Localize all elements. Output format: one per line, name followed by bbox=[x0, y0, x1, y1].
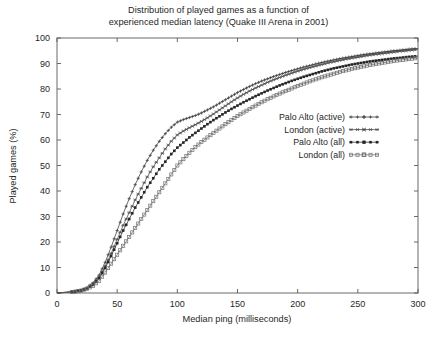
y-tick-label: 80 bbox=[40, 84, 50, 94]
x-tick-label: 100 bbox=[170, 299, 185, 309]
filled-square-marker bbox=[167, 157, 170, 160]
y-tick-label: 90 bbox=[40, 59, 50, 69]
filled-square-marker bbox=[287, 81, 290, 84]
filled-square-marker bbox=[269, 88, 272, 91]
filled-square-marker bbox=[248, 98, 251, 101]
filled-square-marker bbox=[224, 111, 227, 114]
y-tick-label: 70 bbox=[40, 110, 50, 120]
chart-title-line-2: experienced median latency (Quake III Ar… bbox=[109, 17, 329, 27]
filled-square-marker bbox=[293, 79, 296, 82]
filled-square-marker bbox=[200, 127, 203, 130]
filled-square-marker bbox=[375, 59, 378, 62]
filled-square-marker bbox=[206, 123, 209, 126]
chart-canvas: Distribution of played games as a functi… bbox=[0, 0, 437, 340]
filled-square-marker bbox=[155, 172, 158, 175]
filled-square-marker bbox=[101, 272, 104, 275]
filled-square-marker bbox=[170, 153, 173, 156]
filled-square-marker bbox=[113, 248, 116, 251]
filled-square-marker bbox=[176, 146, 179, 149]
y-axis-title: Played games (%) bbox=[8, 128, 18, 203]
filled-square-marker bbox=[191, 134, 194, 137]
filled-square-marker bbox=[215, 117, 218, 120]
filled-square-marker bbox=[116, 242, 119, 245]
filled-square-marker bbox=[329, 68, 332, 71]
filled-square-marker bbox=[317, 71, 320, 74]
filled-square-marker bbox=[131, 212, 134, 215]
filled-square-marker bbox=[302, 75, 305, 78]
filled-square-marker bbox=[326, 69, 329, 72]
legend-label: London (active) bbox=[284, 125, 345, 135]
filled-square-marker bbox=[320, 70, 323, 73]
filled-square-marker bbox=[152, 177, 155, 180]
filled-square-marker bbox=[158, 168, 161, 171]
filled-square-marker bbox=[384, 58, 387, 61]
filled-square-marker bbox=[356, 141, 359, 144]
filled-square-marker bbox=[335, 66, 338, 69]
filled-square-marker bbox=[376, 141, 379, 144]
filled-square-marker bbox=[369, 141, 372, 144]
y-tick-label: 0 bbox=[45, 288, 50, 298]
filled-square-marker bbox=[173, 150, 176, 153]
y-tick-label: 40 bbox=[40, 186, 50, 196]
filled-square-marker bbox=[104, 267, 107, 270]
filled-square-marker bbox=[354, 63, 357, 66]
filled-square-marker bbox=[338, 66, 341, 69]
filled-square-marker bbox=[149, 181, 152, 184]
filled-square-marker bbox=[323, 69, 326, 72]
chart-title-line-1: Distribution of played games as a functi… bbox=[128, 5, 309, 15]
filled-square-marker bbox=[311, 73, 314, 76]
filled-square-marker bbox=[314, 72, 317, 75]
x-axis-title: Median ping (milliseconds) bbox=[183, 314, 292, 324]
filled-square-marker bbox=[305, 75, 308, 78]
filled-square-marker bbox=[332, 67, 335, 70]
filled-square-marker bbox=[266, 89, 269, 92]
filled-square-marker bbox=[182, 141, 185, 144]
filled-square-marker bbox=[218, 115, 221, 118]
filled-square-marker bbox=[257, 93, 260, 96]
filled-square-marker bbox=[378, 59, 381, 62]
x-tick-label: 250 bbox=[350, 299, 365, 309]
x-tick-label: 200 bbox=[290, 299, 305, 309]
filled-square-marker bbox=[369, 60, 372, 63]
filled-square-marker bbox=[239, 103, 242, 106]
filled-square-marker bbox=[122, 229, 125, 232]
filled-square-marker bbox=[284, 82, 287, 85]
filled-square-marker bbox=[143, 191, 146, 194]
filled-square-marker bbox=[140, 196, 143, 199]
filled-square-marker bbox=[209, 121, 212, 124]
y-tick-label: 100 bbox=[35, 33, 50, 43]
y-tick-label: 10 bbox=[40, 263, 50, 273]
filled-square-marker bbox=[146, 186, 149, 189]
filled-square-marker bbox=[185, 139, 188, 142]
filled-square-marker bbox=[414, 55, 417, 58]
filled-square-marker bbox=[203, 125, 206, 128]
filled-square-marker bbox=[236, 104, 239, 107]
filled-square-marker bbox=[381, 59, 384, 62]
filled-square-marker bbox=[125, 223, 128, 226]
filled-square-marker bbox=[344, 64, 347, 67]
filled-square-marker bbox=[308, 74, 311, 77]
x-tick-label: 300 bbox=[410, 299, 425, 309]
filled-square-marker bbox=[411, 55, 414, 58]
filled-square-marker bbox=[251, 96, 254, 99]
y-tick-label: 50 bbox=[40, 161, 50, 171]
legend-label: Palo Alto (active) bbox=[279, 112, 345, 122]
filled-square-marker bbox=[372, 60, 375, 63]
filled-square-marker bbox=[242, 101, 245, 104]
filled-square-marker bbox=[233, 106, 236, 109]
filled-square-marker bbox=[188, 136, 191, 139]
filled-square-marker bbox=[161, 164, 164, 167]
y-tick-label: 20 bbox=[40, 237, 50, 247]
chart-background bbox=[0, 0, 437, 340]
filled-square-marker bbox=[351, 63, 354, 66]
filled-square-marker bbox=[260, 92, 263, 95]
filled-square-marker bbox=[263, 91, 266, 94]
filled-square-marker bbox=[296, 77, 299, 80]
filled-square-marker bbox=[119, 236, 122, 239]
filled-square-marker bbox=[272, 87, 275, 90]
filled-square-marker bbox=[278, 84, 281, 87]
filled-square-marker bbox=[164, 160, 167, 163]
y-tick-label: 60 bbox=[40, 135, 50, 145]
filled-square-marker bbox=[275, 85, 278, 88]
filled-square-marker bbox=[110, 255, 113, 258]
